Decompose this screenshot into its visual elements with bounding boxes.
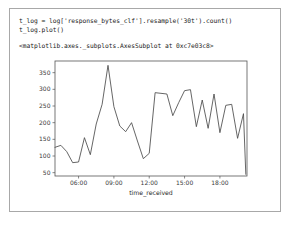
data-line [55, 65, 246, 174]
line-chart: 5010015020025030035006:0009:0012:0015:00… [24, 57, 256, 205]
cell-output-text: <matplotlib.axes._subplots.AxesSubplot a… [19, 41, 273, 50]
y-tick-label: 100 [39, 152, 51, 159]
x-tick-label: 12:00 [141, 179, 158, 186]
x-axis-label: time_received [129, 189, 173, 197]
y-tick-label: 150 [39, 135, 51, 142]
code-line-1: t_log = log['response_bytes_clf'].resamp… [19, 16, 273, 25]
code-block[interactable]: t_log = log['response_bytes_clf'].resamp… [19, 16, 273, 51]
y-tick-label: 350 [39, 69, 51, 76]
notebook-cell[interactable]: t_log = log['response_bytes_clf'].resamp… [9, 8, 281, 212]
x-tick-label: 15:00 [176, 179, 193, 186]
x-tick-label: 18:00 [211, 179, 228, 186]
y-tick-label: 200 [39, 119, 51, 126]
code-line-2: t_log.plot() [19, 25, 273, 34]
plot-frame [55, 61, 247, 176]
y-tick-label: 50 [43, 169, 51, 176]
x-tick-label: 06:00 [70, 179, 87, 186]
y-tick-label: 300 [39, 85, 51, 92]
matplotlib-figure: 5010015020025030035006:0009:0012:0015:00… [24, 57, 256, 205]
y-tick-label: 250 [39, 102, 51, 109]
x-tick-label: 09:00 [105, 179, 122, 186]
